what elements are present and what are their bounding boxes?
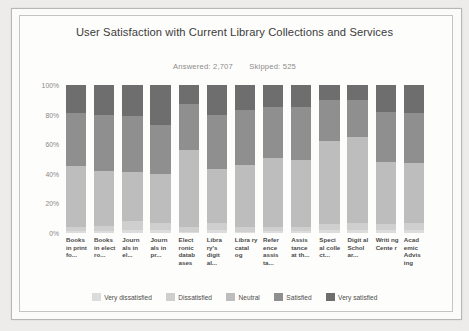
- y-axis-tick: 100%: [42, 82, 59, 89]
- screenshot-root: User Satisfaction with Current Library C…: [0, 0, 469, 331]
- y-axis: 100%80%60%40%20%0%: [33, 80, 59, 238]
- bar-segment: [66, 85, 86, 113]
- bar-segment: [347, 100, 367, 137]
- legend-item: Very satisfied: [326, 293, 378, 301]
- legend-item: Neutral: [226, 293, 260, 301]
- bar-segment: [150, 174, 170, 223]
- legend-swatch: [226, 293, 235, 301]
- legend-swatch: [326, 293, 335, 301]
- chart-bar: [347, 85, 367, 233]
- bar-segment: [207, 230, 227, 233]
- bar-segment: [235, 165, 255, 227]
- chart-bar: [235, 85, 255, 233]
- x-axis-label: Refer ence assis ta...: [263, 236, 286, 266]
- x-axis-label: Books in elect ro...: [94, 236, 117, 259]
- legend-item: Very dissatisfied: [92, 293, 152, 301]
- bar-segment: [347, 223, 367, 230]
- x-axis-label: Elect ronic datab ases: [179, 236, 202, 266]
- x-axis-label: Speci al colle ct...: [319, 236, 342, 259]
- bar-segment: [207, 169, 227, 222]
- bar-segment: [150, 230, 170, 233]
- bar-segment: [150, 85, 170, 125]
- bar-segment: [376, 112, 396, 162]
- bar-segment: [94, 231, 114, 232]
- bar-segment: [347, 230, 367, 233]
- bar-segment: [207, 115, 227, 170]
- x-axis-label: Acad emic Advis ing: [404, 236, 427, 266]
- y-axis-tick: 60%: [45, 141, 59, 148]
- bar-segment: [179, 85, 199, 104]
- bar-segment: [319, 141, 339, 224]
- x-axis-label: Writi ng Cente r: [376, 236, 399, 251]
- chart-bar: [122, 85, 142, 233]
- bar-segment: [235, 110, 255, 165]
- bar-segment: [235, 85, 255, 110]
- bar-segment: [347, 85, 367, 100]
- chart-bar: [66, 85, 86, 233]
- chart-bar: [291, 85, 311, 233]
- bar-segment: [94, 171, 114, 226]
- bar-segment: [235, 232, 255, 233]
- bar-segment: [376, 162, 396, 224]
- bar-segment: [347, 137, 367, 223]
- bar-segment: [263, 231, 283, 232]
- legend-item: Satisfied: [274, 293, 312, 301]
- y-axis-tick: 20%: [45, 200, 59, 207]
- legend-swatch: [92, 293, 101, 301]
- bar-segment: [179, 150, 199, 227]
- bar-segment: [207, 223, 227, 230]
- bar-segment: [291, 231, 311, 232]
- bar-segment: [150, 223, 170, 230]
- legend-label: Very dissatisfied: [104, 294, 152, 301]
- chart-bar: [179, 85, 199, 233]
- x-axis-label: Journ als in el...: [122, 236, 145, 259]
- y-axis-tick: 0%: [49, 230, 59, 237]
- legend-swatch: [274, 293, 283, 301]
- chart-plot-wrapper: 100%80%60%40%20%0% Books in print fo...B…: [0, 0, 469, 331]
- legend-label: Neutral: [239, 294, 260, 301]
- chart-bar: [319, 85, 339, 233]
- plot-area: [62, 85, 428, 233]
- bar-segment: [122, 116, 142, 172]
- chart-bar: [150, 85, 170, 233]
- x-axis-label: Journ als in pr...: [150, 236, 173, 259]
- bar-segment: [319, 85, 339, 100]
- bar-segment: [404, 85, 424, 113]
- bar-segment: [179, 232, 199, 233]
- bar-segment: [404, 113, 424, 163]
- chart-bar: [263, 85, 283, 233]
- bar-segment: [319, 100, 339, 141]
- bar-segment: [376, 230, 396, 233]
- bar-segment: [291, 107, 311, 160]
- bar-segment: [263, 107, 283, 157]
- y-axis-tick: 40%: [45, 170, 59, 177]
- bar-segment: [122, 172, 142, 221]
- legend-label: Dissatisfied: [178, 294, 212, 301]
- chart-bar: [207, 85, 227, 233]
- bar-segment: [179, 104, 199, 150]
- bar-segment: [404, 230, 424, 233]
- chart-bar: [376, 85, 396, 233]
- chart-bar: [94, 85, 114, 233]
- bar-segment: [150, 125, 170, 174]
- x-axis-label: Assis tance at th...: [291, 236, 314, 259]
- bar-segment: [404, 223, 424, 230]
- legend-item: Dissatisfied: [166, 293, 212, 301]
- legend-label: Satisfied: [286, 294, 311, 301]
- bar-segment: [263, 158, 283, 228]
- y-axis-tick: 80%: [45, 111, 59, 118]
- x-axis-label: Libra ry's digit al...: [207, 236, 230, 266]
- chart-legend: Very dissatisfiedDissatisfiedNeutralSati…: [0, 293, 469, 301]
- bar-segment: [66, 113, 86, 166]
- bar-segment: [291, 85, 311, 107]
- bar-segment: [207, 85, 227, 115]
- x-axis-label: Books in print fo...: [66, 236, 89, 259]
- bar-segment: [122, 230, 142, 233]
- legend-swatch: [166, 293, 175, 301]
- chart-bar: [404, 85, 424, 233]
- x-axis-label: Libra ry catal og: [235, 236, 258, 259]
- bar-segment: [66, 231, 86, 232]
- bar-segment: [319, 230, 339, 233]
- bar-segment: [291, 160, 311, 227]
- bar-segment: [94, 85, 114, 115]
